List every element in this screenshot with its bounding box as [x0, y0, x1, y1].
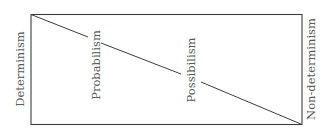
diagonal-segment-1 [31, 15, 88, 38]
diagonal-segment-2 [101, 43, 181, 74]
diagonal-segment-3 [201, 82, 302, 125]
determinism-spectrum-diagram: Determinism Probabilism Possibilism Non-… [0, 0, 332, 138]
non-determinism-label: Non-determinism [304, 18, 318, 120]
possibilism-label: Possibilism [184, 37, 198, 102]
determinism-label: Determinism [13, 31, 27, 107]
probabilism-label: Probabilism [89, 30, 103, 100]
